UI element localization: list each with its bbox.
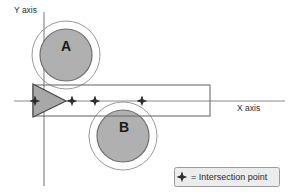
x-axis-label: X axis — [237, 103, 260, 113]
circle-b-label: B — [119, 119, 129, 135]
y-axis-label: Y axis — [14, 5, 37, 15]
circle-a-label: A — [61, 38, 71, 54]
circle-a — [40, 29, 92, 81]
intersection-point-marker — [67, 96, 77, 106]
intersection-point-marker — [90, 96, 100, 106]
intersection-point-marker — [137, 96, 147, 106]
circle-b — [97, 110, 149, 162]
diagram-canvas: A B Y axis X axis = Intersection point — [0, 0, 294, 196]
legend-label: = Intersection point — [191, 172, 268, 182]
